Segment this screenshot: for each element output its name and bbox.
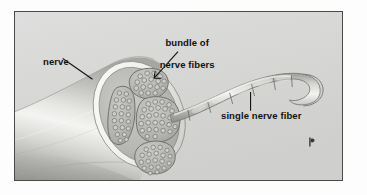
- figure-frame: bundle of nerve fibers nerve single nerv…: [14, 11, 343, 181]
- label-single-nerve-fiber: single nerve fiber: [221, 110, 337, 121]
- label-bundle-of-nerve-fibers: bundle of nerve fibers: [131, 26, 227, 81]
- figure-root: bundle of nerve fibers nerve single nerv…: [0, 0, 367, 195]
- label-bundle-line-2: nerve fibers: [160, 59, 215, 70]
- label-nerve: nerve: [43, 56, 91, 67]
- label-bundle-line-1: bundle of: [165, 37, 209, 48]
